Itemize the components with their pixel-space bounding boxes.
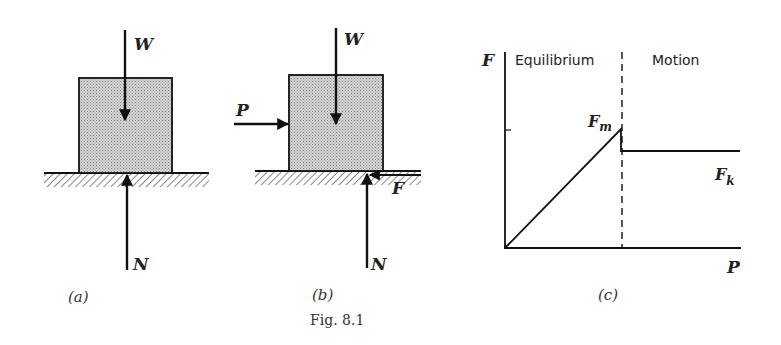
peak-label: Fm: [587, 112, 612, 134]
weight-label: W: [344, 29, 365, 49]
normal-label: N: [370, 254, 388, 274]
normal-label: N: [132, 254, 150, 274]
y-axis-label: F: [481, 50, 496, 70]
panel-a: W N (a): [44, 30, 209, 306]
panel-c-label: (c): [598, 286, 618, 304]
figure-caption: Fig. 8.1: [310, 312, 364, 328]
x-axis-label: P: [726, 257, 741, 277]
friction-label: F: [391, 178, 406, 198]
weight-label: W: [134, 34, 155, 54]
region-equilibrium-label: Equilibrium: [515, 52, 594, 68]
panel-c-chart: F Equilibrium Motion Fm Fk P (c): [481, 50, 741, 304]
panel-b: W P F N (b) Fig. 8.1: [234, 28, 421, 328]
kinetic-label: Fk: [714, 165, 735, 188]
panel-a-label: (a): [68, 288, 89, 306]
region-motion-label: Motion: [652, 52, 699, 68]
figure-canvas: W N (a) W P F N (b) Fig. 8.1 F Equilibri…: [0, 0, 781, 345]
panel-b-label: (b): [312, 286, 333, 304]
push-label: P: [235, 100, 250, 120]
